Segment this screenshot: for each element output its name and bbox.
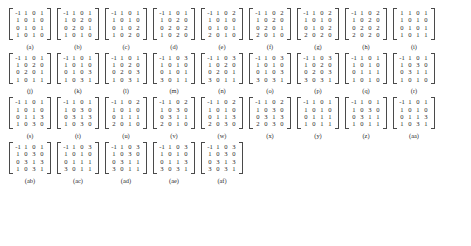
- matrix-body: -1102101001012010: [206, 9, 238, 39]
- matrix-caption: (f): [267, 42, 273, 51]
- matrix-entry: 0: [262, 76, 270, 83]
- matrix-entry: 3: [86, 143, 94, 150]
- matrix-row-entries: -1101: [62, 54, 94, 61]
- matrix-entry: 0: [166, 76, 174, 83]
- matrix-entry: 0: [182, 16, 190, 23]
- matrix-item: -1103103003113011(ad): [102, 142, 150, 185]
- matrix-entry: 0: [70, 150, 78, 157]
- matrix-caption: (e): [218, 42, 225, 51]
- matrix-entry: 1: [326, 120, 334, 127]
- matrix-item: -1102101001012010(e): [198, 8, 246, 51]
- matrix-entry: 1: [398, 106, 406, 113]
- matrix-entry: 3: [182, 54, 190, 61]
- matrix-row-entries: -1102: [350, 9, 382, 16]
- matrix-row-entries: 1020: [110, 61, 142, 68]
- matrix-row-entries: -1102: [158, 98, 190, 105]
- matrix-brackets: 1101101001011011: [393, 8, 435, 40]
- matrix-brackets: -1101101001011010: [9, 8, 51, 40]
- matrix-entry: 1: [70, 54, 78, 61]
- matrix-entry: 0: [326, 61, 334, 68]
- matrix-brackets: -1102103003112010: [153, 97, 195, 129]
- matrix-entry: 0: [174, 98, 182, 105]
- matrix-entry: 1: [86, 24, 94, 31]
- matrix-entry: -1: [206, 98, 214, 105]
- matrix-brackets: -1101102002011010: [57, 8, 99, 40]
- matrix-row-entries: 1020: [110, 31, 142, 38]
- matrix-brackets: -1103103003113011: [105, 142, 147, 174]
- matrix-entry: 1: [38, 68, 46, 75]
- matrix-entry: 0: [126, 143, 134, 150]
- matrix-entry: -1: [350, 9, 358, 16]
- matrix-entry: 0: [214, 120, 222, 127]
- matrix-entry: 0: [182, 31, 190, 38]
- matrix-entry: 1: [206, 150, 214, 157]
- matrix-caption: (z): [362, 131, 369, 140]
- matrix-entry: 1: [222, 76, 230, 83]
- matrix-brackets: -1103101001133031: [153, 142, 195, 174]
- matrix-row-entries: -1103: [158, 143, 190, 150]
- matrix-row-entries: -1101: [398, 54, 430, 61]
- matrix-entry: 0: [414, 54, 422, 61]
- matrix-entry: 1: [174, 76, 182, 83]
- matrix-entry: 0: [310, 120, 318, 127]
- matrix-entry: 3: [278, 68, 286, 75]
- matrix-entry: 0: [310, 106, 318, 113]
- matrix-entry: 0: [174, 24, 182, 31]
- matrix-entry: 0: [22, 165, 30, 172]
- matrix-entry: 1: [22, 98, 30, 105]
- matrix-body: -1103101001133031: [158, 143, 190, 173]
- matrix-entry: 3: [78, 106, 86, 113]
- matrix-entry: 2: [326, 9, 334, 16]
- matrix-caption: (p): [314, 86, 321, 95]
- matrix-entry: 0: [158, 113, 166, 120]
- matrix-entry: 0: [22, 31, 30, 38]
- matrix-entry: 1: [206, 106, 214, 113]
- matrix-row-entries: 1020: [206, 61, 238, 68]
- matrix-item: -1101101001131031(aa): [390, 97, 438, 140]
- matrix-entry: 1: [110, 31, 118, 38]
- matrix-entry: 1: [70, 98, 78, 105]
- matrix-caption: (m): [169, 86, 178, 95]
- matrix-entry: 0: [22, 76, 30, 83]
- matrix-entry: 1: [422, 9, 430, 16]
- matrix-entry: 1: [254, 61, 262, 68]
- matrix-entry: 1: [422, 120, 430, 127]
- matrix-entry: 1: [214, 9, 222, 16]
- matrix-entry: -1: [350, 54, 358, 61]
- matrix-entry: 1: [78, 61, 86, 68]
- matrix-row-entries: 0313: [206, 158, 238, 165]
- matrix-entry: 1: [86, 76, 94, 83]
- matrix-entry: 1: [22, 24, 30, 31]
- matrix-entry: 2: [254, 120, 262, 127]
- matrix-entry: 0: [222, 98, 230, 105]
- matrix-entry: -1: [254, 54, 262, 61]
- matrix-row-entries: 1020: [14, 61, 46, 68]
- matrix-entry: 1: [254, 16, 262, 23]
- matrix-entry: 1: [158, 150, 166, 157]
- matrix-entry: 1: [398, 76, 406, 83]
- matrix-entry: 0: [422, 16, 430, 23]
- matrix-entry: 2: [310, 68, 318, 75]
- matrix-row-entries: 2030: [206, 120, 238, 127]
- matrix-item: -1101102002011010(b): [54, 8, 102, 51]
- matrix-row-entries: 1030: [398, 61, 430, 68]
- matrix-caption: (x): [266, 131, 273, 140]
- matrix-entry: 1: [222, 106, 230, 113]
- matrix-entry: 1: [134, 113, 142, 120]
- matrix-entry: 1: [222, 31, 230, 38]
- matrix-body: -1102102002022020: [350, 9, 382, 39]
- matrix-entry: -1: [206, 143, 214, 150]
- matrix-entry: 2: [222, 61, 230, 68]
- matrix-entry: 0: [166, 150, 174, 157]
- matrix-entry: 0: [318, 68, 326, 75]
- matrix-entry: 0: [174, 68, 182, 75]
- matrix-row-entries: 2010: [110, 120, 142, 127]
- matrix-entry: 1: [62, 120, 70, 127]
- matrix-entry: -1: [14, 143, 22, 150]
- matrix-entry: 0: [302, 113, 310, 120]
- matrix-entry: 1: [422, 24, 430, 31]
- matrix-row-entries: 1031: [398, 120, 430, 127]
- matrix-brackets: -1101103003111011: [345, 97, 387, 129]
- matrix-row-entries: 0111: [62, 158, 94, 165]
- matrix-entry: 0: [262, 31, 270, 38]
